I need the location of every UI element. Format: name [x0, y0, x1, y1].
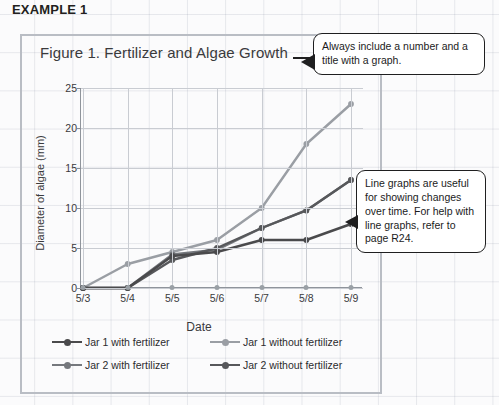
x-axis-tick-dot [349, 285, 354, 290]
gridline-vertical [128, 88, 129, 288]
gridline-horizontal [81, 128, 363, 129]
legend-line-swatch [210, 360, 240, 370]
y-axis-tick-mark [77, 128, 81, 129]
legend-line-swatch [52, 337, 82, 347]
y-axis-title-label: Diameter of algae (mm) [34, 135, 46, 251]
legend-item-label: Jar 2 without fertilizer [243, 359, 342, 371]
y-axis-tick-mark [77, 248, 81, 249]
gridline-vertical [262, 88, 263, 288]
gridline-vertical [351, 88, 352, 288]
callout-title-advice: Always include a number and a title with… [313, 33, 485, 75]
legend-item-label: Jar 2 with fertilizer [85, 359, 170, 371]
legend-item: Jar 1 without fertilizer [210, 336, 364, 348]
x-axis-tick-label: 5/4 [120, 292, 135, 304]
legend-line-swatch [52, 360, 82, 370]
x-axis-tick-dot [304, 285, 309, 290]
legend-item: Jar 1 with fertilizer [52, 336, 206, 348]
gridline-horizontal [81, 248, 363, 249]
y-axis-tick-label: 10 [65, 202, 77, 214]
x-axis-tick-label: 5/9 [344, 292, 359, 304]
gridline-horizontal [81, 208, 363, 209]
plot-wrapper: Diameter of algae (mm) 05101520255/35/45… [58, 88, 362, 298]
x-axis-tick-label: 5/8 [299, 292, 314, 304]
x-axis-tick-dot [215, 285, 220, 290]
gridline-vertical [217, 88, 218, 288]
callout-linegraph-advice: Line graphs are useful for showing chang… [356, 170, 486, 253]
plot-area: 05101520255/35/45/55/65/75/85/9 [80, 88, 362, 288]
y-axis-tick-mark [77, 208, 81, 209]
legend-item: Jar 2 with fertilizer [52, 359, 206, 371]
gridline-horizontal [81, 288, 363, 289]
example-heading: EXAMPLE 1 [12, 2, 87, 17]
callout-line-text: Line graphs are useful for showing chang… [365, 177, 474, 244]
x-axis-tick-dot [259, 285, 264, 290]
gridline-vertical [172, 88, 173, 288]
y-axis-tick-label: 25 [65, 82, 77, 94]
x-axis-tick-dot [81, 285, 86, 290]
gridline-vertical [306, 88, 307, 288]
callout-pointer-icon [301, 54, 315, 70]
y-axis-tick-mark [77, 88, 81, 89]
legend-item-label: Jar 1 without fertilizer [243, 336, 342, 348]
legend-item: Jar 2 without fertilizer [210, 359, 364, 371]
chart-title: Figure 1. Fertilizer and Algae Growth [40, 44, 288, 61]
x-axis-tick-label: 5/5 [165, 292, 180, 304]
gridline-vertical [83, 88, 84, 288]
legend-line-swatch [210, 337, 240, 347]
chart-panel: Figure 1. Fertilizer and Algae Growth Di… [20, 34, 382, 394]
chart-legend: Jar 1 with fertilizerJar 1 without ferti… [52, 336, 364, 371]
x-axis-tick-dot [125, 285, 130, 290]
x-axis-tick-label: 5/7 [254, 292, 269, 304]
callout-pointer-icon [345, 215, 358, 229]
callout-title-text: Always include a number and a title with… [322, 40, 468, 66]
x-axis-tick-label: 5/3 [76, 292, 91, 304]
y-axis-tick-mark [77, 168, 81, 169]
series-layer [81, 88, 363, 288]
x-axis-tick-dot [170, 285, 175, 290]
gridline-horizontal [81, 168, 363, 169]
x-axis-tick-label: 5/6 [210, 292, 225, 304]
y-axis-tick-label: 20 [65, 122, 77, 134]
gridline-horizontal [81, 88, 363, 89]
legend-item-label: Jar 1 with fertilizer [85, 336, 170, 348]
x-axis-title: Date [58, 320, 340, 334]
y-axis-title: Diameter of algae (mm) [30, 88, 50, 298]
y-axis-tick-label: 15 [65, 162, 77, 174]
